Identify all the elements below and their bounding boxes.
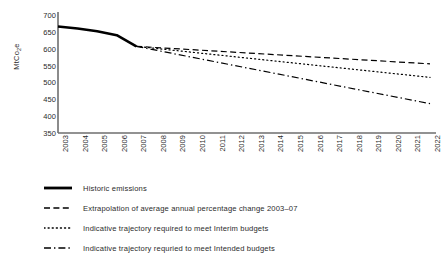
legend-line-swatch <box>44 221 72 235</box>
x-tick-label: 2015 <box>296 135 305 152</box>
x-tick-label: 2022 <box>433 135 442 152</box>
legend-item-label: Historic emissions <box>83 184 147 193</box>
x-tick-label: 2007 <box>139 135 148 152</box>
legend-line-swatch <box>44 241 72 254</box>
legend-item-label: Indicative trajectory required to meet I… <box>83 224 268 233</box>
x-tick-label: 2013 <box>257 135 266 152</box>
legend-item: Historic emissions <box>44 178 434 198</box>
x-tick-label: 2006 <box>120 135 129 152</box>
x-tick-label: 2012 <box>237 135 246 152</box>
legend-item-label: Indicative trajectory requried to meet I… <box>83 244 275 253</box>
x-tick-label: 2008 <box>159 135 168 152</box>
x-axis-tick-labels: 2003200420052006200720082009201020112012… <box>0 135 442 175</box>
series-line-0 <box>58 26 136 46</box>
x-tick-label: 2017 <box>335 135 344 152</box>
x-tick-label: 2020 <box>394 135 403 152</box>
legend-line-swatch <box>44 201 72 215</box>
emissions-trajectory-figure: MtCo2e 700650600550500450400350 20032004… <box>0 0 442 254</box>
x-tick-label: 2009 <box>178 135 187 152</box>
series-line-3 <box>136 46 430 103</box>
x-tick-label: 2003 <box>61 135 70 152</box>
legend-item: Indicative trajectory required to meet I… <box>44 218 434 238</box>
x-tick-label: 2011 <box>218 135 227 152</box>
legend-item: Extrapolation of average annual percenta… <box>44 198 434 218</box>
x-tick-label: 2018 <box>355 135 364 152</box>
x-tick-label: 2021 <box>413 135 422 152</box>
legend-line-swatch <box>44 181 72 195</box>
chart-legend: Historic emissionsExtrapolation of avera… <box>44 178 434 254</box>
x-tick-label: 2019 <box>374 135 383 152</box>
legend-item: Indicative trajectory requried to meet I… <box>44 238 434 254</box>
x-tick-label: 2005 <box>100 135 109 152</box>
x-tick-label: 2010 <box>198 135 207 152</box>
x-tick-label: 2004 <box>81 135 90 152</box>
x-tick-label: 2016 <box>316 135 325 152</box>
x-tick-label: 2014 <box>276 135 285 152</box>
series-line-2 <box>136 46 430 77</box>
legend-item-label: Extrapolation of average annual percenta… <box>83 204 298 213</box>
chart-plot-area: MtCo2e 700650600550500450400350 20032004… <box>0 0 442 175</box>
